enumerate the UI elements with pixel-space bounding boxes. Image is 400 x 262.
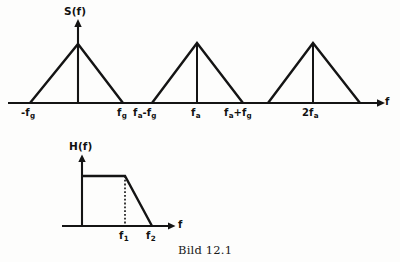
tick-label-fa: fa [191,108,200,118]
baseband-triangle [30,44,123,103]
tick-f1-sub: 1 [124,234,129,243]
tick-fa-minus-fg-a: f [133,107,137,118]
figure-bild-12-1: S(f) f -fg fg fa-fg fa fa+fg 2fa H(f) f … [0,0,400,262]
tick-pos-fg-sub: g [122,111,127,120]
tick-label-fa-minus-fg: fa-fg [133,108,156,118]
tick-label-neg-fg: -fg [21,108,35,118]
top-plot-x-axis-arrow [377,99,385,107]
tick-neg-fg-base: -f [21,107,30,118]
top-plot-group [8,19,385,107]
tick-label-f1: f1 [119,231,129,241]
tick-two-fa-sub: a [314,111,319,120]
tick-f2-base: f [146,230,150,241]
tick-f1-base: f [119,230,123,241]
tick-fa-sub: a [196,111,201,120]
tick-fa-plus-fg-plus: +f [233,107,246,118]
tick-fa-minus-fg-a-sub: a [138,111,143,120]
bottom-plot-group [62,155,176,230]
tick-fa-plus-fg-g-sub: g [247,111,252,120]
tick-label-f2: f2 [146,231,156,241]
top-plot-axis-title: S(f) [64,6,86,17]
tick-fa-minus-fg-g-sub: g [151,111,156,120]
bottom-plot-x-axis-arrow [168,222,176,229]
top-plot-y-axis-arrow [74,19,81,27]
figure-caption: Bild 12.1 [178,243,232,257]
tick-neg-fg-sub: g [30,111,35,120]
tick-fa-base: f [191,107,195,118]
tick-label-two-fa: 2fa [302,108,318,118]
tick-label-pos-fg: fg [117,108,127,118]
tick-label-fa-plus-fg: fa+fg [224,108,252,118]
tick-f2-sub: 2 [151,234,156,243]
tick-pos-fg-base: f [117,107,121,118]
bottom-plot-x-axis-label: f [178,220,182,230]
bottom-plot-axis-title: H(f) [69,141,92,152]
tick-two-fa-base: 2f [302,107,314,118]
figure-drawing-canvas [0,0,400,262]
tick-fa-plus-fg-a: f [224,107,228,118]
top-plot-x-axis-label: f [385,97,389,107]
tick-fa-plus-fg-a-sub: a [229,111,234,120]
bottom-plot-y-axis-arrow [78,155,85,163]
tick-fa-minus-fg-dash: -f [142,107,151,118]
filter-response-curve [82,176,152,226]
